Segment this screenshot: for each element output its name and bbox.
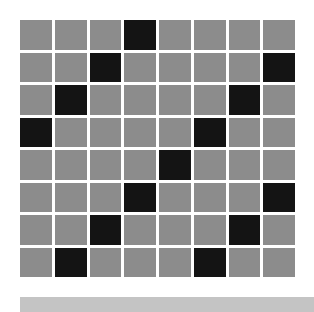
board-cell-r5-c1[interactable] xyxy=(55,183,87,213)
board-cell-r5-c4[interactable] xyxy=(159,183,191,213)
board-cell-r1-c3[interactable] xyxy=(124,53,156,83)
board-cell-r6-c3[interactable] xyxy=(124,215,156,245)
board-cell-r5-c2[interactable] xyxy=(90,183,122,213)
board-cell-r1-c2[interactable] xyxy=(90,53,122,83)
board-cell-r4-c5[interactable] xyxy=(194,150,226,180)
board-cell-r0-c2[interactable] xyxy=(90,20,122,50)
board-cell-r4-c3[interactable] xyxy=(124,150,156,180)
board-cell-r6-c2[interactable] xyxy=(90,215,122,245)
game-board xyxy=(20,20,295,277)
board-cell-r0-c7[interactable] xyxy=(263,20,295,50)
board-cell-r3-c4[interactable] xyxy=(159,118,191,148)
board-cell-r0-c4[interactable] xyxy=(159,20,191,50)
board-cell-r4-c1[interactable] xyxy=(55,150,87,180)
board-cell-r6-c6[interactable] xyxy=(229,215,261,245)
board-cell-r1-c6[interactable] xyxy=(229,53,261,83)
board-cell-r1-c5[interactable] xyxy=(194,53,226,83)
board-cell-r4-c7[interactable] xyxy=(263,150,295,180)
board-cell-r2-c3[interactable] xyxy=(124,85,156,115)
board-cell-r3-c0[interactable] xyxy=(20,118,52,148)
board-cell-r3-c1[interactable] xyxy=(55,118,87,148)
board-cell-r0-c3[interactable] xyxy=(124,20,156,50)
board-cell-r0-c6[interactable] xyxy=(229,20,261,50)
board-cell-r0-c0[interactable] xyxy=(20,20,52,50)
board-cell-r3-c6[interactable] xyxy=(229,118,261,148)
board-cell-r5-c3[interactable] xyxy=(124,183,156,213)
bottom-bar xyxy=(20,297,314,312)
board-cell-r3-c2[interactable] xyxy=(90,118,122,148)
board-cell-r4-c4[interactable] xyxy=(159,150,191,180)
board-cell-r7-c1[interactable] xyxy=(55,248,87,278)
board-cell-r6-c1[interactable] xyxy=(55,215,87,245)
board-cell-r6-c0[interactable] xyxy=(20,215,52,245)
board-cell-r5-c7[interactable] xyxy=(263,183,295,213)
board-cell-r4-c0[interactable] xyxy=(20,150,52,180)
board-cell-r7-c6[interactable] xyxy=(229,248,261,278)
board-cell-r3-c5[interactable] xyxy=(194,118,226,148)
board-cell-r6-c7[interactable] xyxy=(263,215,295,245)
board-cell-r7-c5[interactable] xyxy=(194,248,226,278)
board-cell-r2-c4[interactable] xyxy=(159,85,191,115)
board-cell-r2-c1[interactable] xyxy=(55,85,87,115)
board-cell-r4-c6[interactable] xyxy=(229,150,261,180)
board-cell-r3-c7[interactable] xyxy=(263,118,295,148)
board-cell-r0-c5[interactable] xyxy=(194,20,226,50)
board-cell-r1-c4[interactable] xyxy=(159,53,191,83)
board-cell-r6-c5[interactable] xyxy=(194,215,226,245)
board-cell-r2-c2[interactable] xyxy=(90,85,122,115)
board-cell-r5-c0[interactable] xyxy=(20,183,52,213)
board-cell-r7-c0[interactable] xyxy=(20,248,52,278)
board-cell-r2-c6[interactable] xyxy=(229,85,261,115)
board-cell-r6-c4[interactable] xyxy=(159,215,191,245)
board-cell-r2-c7[interactable] xyxy=(263,85,295,115)
board-cell-r1-c1[interactable] xyxy=(55,53,87,83)
board-cell-r7-c3[interactable] xyxy=(124,248,156,278)
board-cell-r4-c2[interactable] xyxy=(90,150,122,180)
board-cell-r1-c0[interactable] xyxy=(20,53,52,83)
board-cell-r2-c5[interactable] xyxy=(194,85,226,115)
board-cell-r7-c7[interactable] xyxy=(263,248,295,278)
board-cell-r0-c1[interactable] xyxy=(55,20,87,50)
board-cell-r2-c0[interactable] xyxy=(20,85,52,115)
board-cell-r1-c7[interactable] xyxy=(263,53,295,83)
board-cell-r5-c6[interactable] xyxy=(229,183,261,213)
board-cell-r7-c4[interactable] xyxy=(159,248,191,278)
board-cell-r7-c2[interactable] xyxy=(90,248,122,278)
board-cell-r3-c3[interactable] xyxy=(124,118,156,148)
board-cell-r5-c5[interactable] xyxy=(194,183,226,213)
